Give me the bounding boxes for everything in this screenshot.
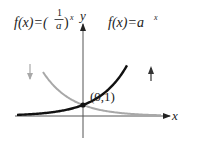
intersection-point bbox=[80, 102, 85, 107]
label-fx-left: f(x)=( bbox=[14, 15, 49, 31]
legend-label-inverse-exponential: f(x)=( 1 a ) x bbox=[14, 7, 74, 31]
label-exponent: x bbox=[153, 13, 158, 22]
label-fx-right: f(x)=a bbox=[108, 15, 144, 31]
increasing-arrow-icon bbox=[148, 66, 154, 81]
decreasing-arrow-icon bbox=[27, 64, 33, 80]
svg-text:f(x)=(: f(x)=( bbox=[14, 15, 49, 31]
fraction-numerator: 1 bbox=[57, 7, 62, 18]
point-label: (0,1) bbox=[90, 89, 115, 104]
y-axis-label: y bbox=[78, 8, 86, 23]
x-axis-label: x bbox=[171, 108, 178, 123]
label-close-paren: ) bbox=[64, 15, 69, 31]
fraction-denominator: a bbox=[56, 19, 62, 31]
legend-label-exponential: f(x)=a x bbox=[108, 13, 158, 31]
svg-text:f(x)=a: f(x)=a bbox=[108, 15, 144, 31]
label-exponent: x bbox=[69, 13, 74, 22]
exponential-graph: x y (0,1) f(x)=( 1 a ) x f(x)=a x bbox=[0, 0, 203, 142]
